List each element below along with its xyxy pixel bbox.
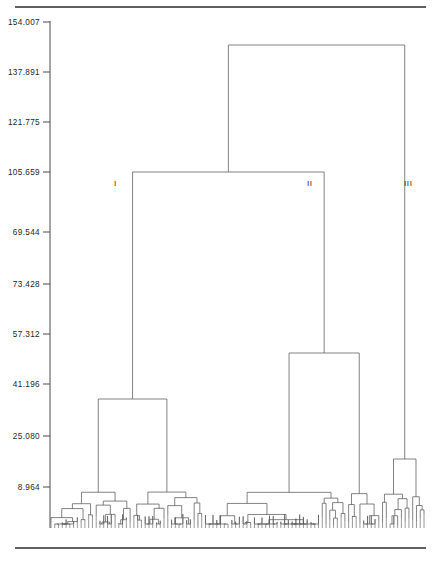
dendrogram-link bbox=[81, 520, 85, 524]
dendrogram-link bbox=[247, 492, 331, 503]
dendrogram-link bbox=[62, 519, 66, 524]
dendrogram-link bbox=[205, 515, 211, 524]
dendrogram-link bbox=[392, 516, 398, 525]
dendrogram-link bbox=[248, 514, 286, 522]
axis-tick-label: 154.007 bbox=[8, 18, 40, 27]
dendrogram-link bbox=[124, 508, 131, 522]
dendrogram-link bbox=[220, 516, 235, 524]
dendrogram-link bbox=[322, 503, 326, 524]
dendrogram-link bbox=[133, 172, 325, 399]
dendrogram-link bbox=[395, 510, 402, 519]
dendrogram-tree bbox=[51, 45, 424, 528]
dendrogram-link bbox=[384, 494, 402, 502]
dendrogram-link bbox=[145, 516, 149, 524]
dendrogram-link bbox=[413, 497, 420, 520]
dendrogram-link bbox=[351, 494, 367, 505]
cluster-labels: I II III bbox=[114, 179, 412, 188]
dendrogram-link bbox=[150, 519, 158, 524]
dendrogram-link bbox=[416, 505, 422, 521]
dendrogram-link bbox=[383, 502, 387, 523]
dendrogram-link bbox=[360, 504, 374, 524]
axis-tick-label: 25.080 bbox=[13, 432, 40, 441]
axis-tick-label: 105.659 bbox=[8, 168, 40, 177]
dendrogram-link bbox=[289, 353, 359, 494]
cluster-label-1: I bbox=[114, 179, 117, 188]
dendrogram-link bbox=[254, 518, 260, 524]
dendrogram-link bbox=[106, 514, 115, 522]
axis-tick-labels: 154.007 137.891 121.775 105.659 69.544 7… bbox=[8, 18, 40, 492]
axis-tick-label: 57.312 bbox=[13, 330, 40, 339]
dendrogram-link bbox=[349, 504, 355, 522]
cluster-label-2: II bbox=[307, 179, 313, 188]
axis-tick-label: 41.196 bbox=[13, 380, 40, 389]
dendrogram-link bbox=[420, 510, 424, 518]
dendrogram-link bbox=[168, 506, 182, 518]
dendrogram-link bbox=[405, 508, 409, 521]
dendrogram-link bbox=[198, 513, 202, 525]
dendrogram-link bbox=[72, 504, 90, 515]
dendrogram-link bbox=[333, 503, 343, 514]
dendrogram-link bbox=[154, 508, 164, 519]
dendrogram-link bbox=[148, 492, 186, 504]
dendrogram-link bbox=[369, 516, 378, 524]
dendrogram-link bbox=[269, 520, 303, 524]
dendrogram-link bbox=[175, 498, 197, 506]
axis-tick-label: 73.428 bbox=[13, 280, 40, 289]
dendrogram-link bbox=[334, 518, 338, 525]
dendrogram-figure: 154.007 137.891 121.775 105.659 69.544 7… bbox=[0, 0, 435, 563]
dendrogram-link bbox=[98, 399, 167, 492]
cluster-label-3: III bbox=[404, 179, 412, 188]
dendrogram-link bbox=[81, 492, 115, 503]
dendrogram-link bbox=[227, 503, 267, 515]
dendrogram-link bbox=[273, 516, 277, 524]
dendrogram-link bbox=[103, 501, 127, 508]
dendrogram-link bbox=[371, 516, 375, 524]
dendrogram-link bbox=[137, 504, 159, 515]
dendrogram-link bbox=[394, 459, 416, 497]
axis-ticks bbox=[43, 22, 50, 487]
dendrogram-link bbox=[313, 515, 319, 524]
dendrogram-link bbox=[341, 514, 345, 522]
dendrogram-link bbox=[285, 514, 289, 524]
dendrogram-link bbox=[236, 517, 240, 524]
dendrogram-canvas: 154.007 137.891 121.775 105.659 69.544 7… bbox=[0, 0, 435, 563]
dendrogram-link bbox=[330, 510, 336, 520]
dendrogram-link bbox=[303, 517, 307, 524]
dendrogram-link bbox=[134, 515, 140, 520]
dendrogram-link bbox=[364, 516, 368, 524]
dendrogram-link bbox=[228, 45, 404, 459]
dendrogram-link bbox=[300, 515, 306, 524]
axis-tick-label: 8.964 bbox=[18, 483, 40, 492]
dendrogram-link bbox=[194, 503, 200, 520]
dendrogram-link bbox=[175, 517, 181, 524]
axis-tick-label: 69.544 bbox=[13, 228, 40, 237]
axis-tick-label: 121.775 bbox=[8, 118, 40, 127]
axis-tick-label: 137.891 bbox=[8, 68, 40, 77]
dendrogram-link bbox=[51, 518, 73, 523]
